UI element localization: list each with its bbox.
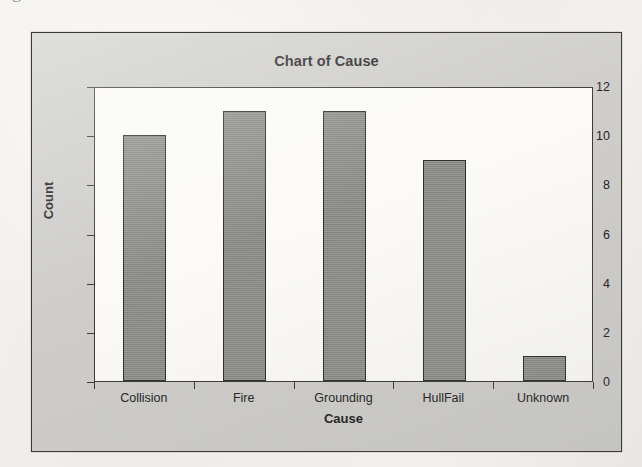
- bar: [123, 135, 166, 381]
- x-axis-tick-label: Unknown: [483, 391, 603, 405]
- cropped-text-above: g: [0, 0, 642, 9]
- y-axis-tick: [87, 333, 94, 334]
- x-axis-tick: [393, 382, 394, 389]
- chart-title: Chart of Cause: [32, 53, 621, 69]
- y-axis-tick: [87, 284, 94, 285]
- x-axis-tick: [194, 382, 195, 389]
- y-axis-tick: [87, 235, 94, 236]
- bar: [523, 356, 566, 381]
- y-axis-tick: [87, 87, 94, 88]
- bar: [423, 160, 466, 381]
- y-axis-tick: [87, 136, 94, 137]
- cropped-text-glyphs: g: [12, 0, 22, 2]
- x-axis-tick: [94, 382, 95, 389]
- chart-panel: Chart of Cause Count 024681012 Collision…: [31, 32, 622, 452]
- bar: [323, 111, 366, 381]
- y-axis-tick: [87, 185, 94, 186]
- y-axis-tick: [87, 382, 94, 383]
- bar: [223, 111, 266, 381]
- x-axis-title: Cause: [94, 411, 593, 426]
- plot-area: [94, 87, 593, 382]
- x-axis-tick: [493, 382, 494, 389]
- y-axis-title: Count: [41, 161, 56, 241]
- x-axis-tick: [294, 382, 295, 389]
- x-axis-tick: [593, 382, 594, 389]
